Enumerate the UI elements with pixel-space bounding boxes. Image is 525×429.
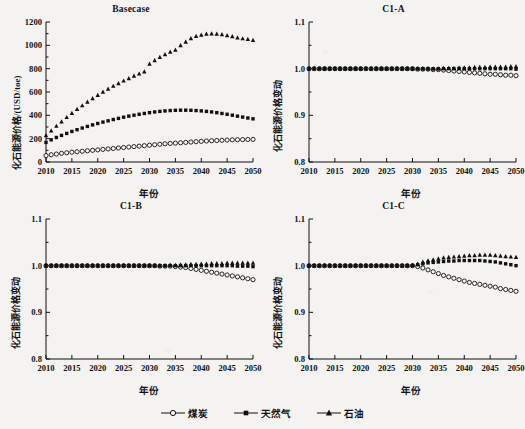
svg-text:2035: 2035 xyxy=(167,166,184,176)
svg-text:1.1: 1.1 xyxy=(294,214,305,224)
chart-panel-c1a: C1-A 化石能源价格变动 0.80.91.01.120102015202020… xyxy=(262,4,525,200)
svg-text:2020: 2020 xyxy=(89,363,106,373)
svg-text:2030: 2030 xyxy=(141,166,158,176)
svg-text:2050: 2050 xyxy=(244,166,261,176)
x-axis-label: 年份 xyxy=(44,186,254,200)
chart-panel-c1c: C1-C 化石能源价格变动 0.80.91.01.120102015202020… xyxy=(262,201,525,397)
svg-text:2030: 2030 xyxy=(404,363,421,373)
svg-text:2025: 2025 xyxy=(378,166,395,176)
svg-text:2010: 2010 xyxy=(300,363,317,373)
plot-area: 0.80.91.01.12010201520202025203020352040… xyxy=(262,4,525,200)
svg-text:2015: 2015 xyxy=(326,166,343,176)
svg-text:2035: 2035 xyxy=(167,363,184,373)
open-circle-marker-icon xyxy=(161,407,185,419)
svg-text:2020: 2020 xyxy=(352,363,369,373)
svg-text:2045: 2045 xyxy=(219,363,236,373)
plot-area: 0.80.91.01.12010201520202025203020352040… xyxy=(262,201,525,397)
svg-text:2040: 2040 xyxy=(456,166,473,176)
svg-text:1.1: 1.1 xyxy=(294,17,305,27)
svg-text:1.0: 1.0 xyxy=(294,261,305,271)
svg-text:800: 800 xyxy=(29,64,42,74)
svg-text:0.9: 0.9 xyxy=(294,307,305,317)
x-axis-label: 年份 xyxy=(306,383,516,397)
svg-text:2030: 2030 xyxy=(404,166,421,176)
svg-text:2010: 2010 xyxy=(300,166,317,176)
svg-text:2050: 2050 xyxy=(507,363,524,373)
svg-text:2035: 2035 xyxy=(430,363,447,373)
svg-text:2025: 2025 xyxy=(115,363,132,373)
svg-text:2030: 2030 xyxy=(141,363,158,373)
svg-text:2045: 2045 xyxy=(482,166,499,176)
svg-text:2010: 2010 xyxy=(37,363,54,373)
svg-text:2040: 2040 xyxy=(456,363,473,373)
svg-text:2035: 2035 xyxy=(430,166,447,176)
svg-text:1.1: 1.1 xyxy=(31,214,42,224)
svg-text:2025: 2025 xyxy=(378,363,395,373)
svg-text:2040: 2040 xyxy=(193,363,210,373)
svg-text:1000: 1000 xyxy=(25,40,42,50)
svg-text:600: 600 xyxy=(29,87,42,97)
series-filled-triangle xyxy=(44,31,255,137)
svg-text:2015: 2015 xyxy=(326,363,343,373)
legend-item-oil: 石油 xyxy=(317,406,364,420)
svg-text:2020: 2020 xyxy=(352,166,369,176)
svg-text:2050: 2050 xyxy=(244,363,261,373)
legend-label-natural-gas: 天然气 xyxy=(261,406,291,420)
svg-text:2010: 2010 xyxy=(37,166,54,176)
svg-text:400: 400 xyxy=(29,110,42,120)
svg-text:1.0: 1.0 xyxy=(31,261,42,271)
chart-panel-c1b: C1-B 化石能源价格变动 0.80.91.01.120102015202020… xyxy=(0,201,262,397)
legend-item-coal: 煤炭 xyxy=(161,406,208,420)
filled-square-marker-icon xyxy=(234,407,258,419)
svg-text:2020: 2020 xyxy=(89,166,106,176)
svg-text:1.0: 1.0 xyxy=(294,64,305,74)
svg-text:1200: 1200 xyxy=(25,17,42,27)
figure-panel-grid: Basecase 化石能源价格/(USD/toe) 02004006008001… xyxy=(0,0,525,429)
x-axis-label: 年份 xyxy=(44,383,254,397)
svg-text:2045: 2045 xyxy=(219,166,236,176)
svg-text:2015: 2015 xyxy=(63,363,80,373)
svg-text:2040: 2040 xyxy=(193,166,210,176)
svg-text:2015: 2015 xyxy=(63,166,80,176)
legend-label-coal: 煤炭 xyxy=(188,406,208,420)
svg-text:2050: 2050 xyxy=(507,166,524,176)
legend-item-natural-gas: 天然气 xyxy=(234,406,291,420)
svg-text:200: 200 xyxy=(29,134,42,144)
series-open-circle xyxy=(307,264,518,294)
chart-panel-basecase: Basecase 化石能源价格/(USD/toe) 02004006008001… xyxy=(0,4,262,200)
svg-text:2045: 2045 xyxy=(482,363,499,373)
svg-text:0.9: 0.9 xyxy=(31,307,42,317)
series-open-circle xyxy=(44,137,255,157)
plot-area: 0.80.91.01.12010201520202025203020352040… xyxy=(0,201,262,397)
svg-text:0.9: 0.9 xyxy=(294,110,305,120)
x-axis-label: 年份 xyxy=(306,186,516,200)
plot-area: 0200400600800100012002010201520202025203… xyxy=(0,4,262,200)
legend-label-oil: 石油 xyxy=(344,406,364,420)
svg-text:2025: 2025 xyxy=(115,166,132,176)
figure-legend: 煤炭 天然气 石油 xyxy=(0,402,525,424)
filled-triangle-marker-icon xyxy=(317,407,341,419)
